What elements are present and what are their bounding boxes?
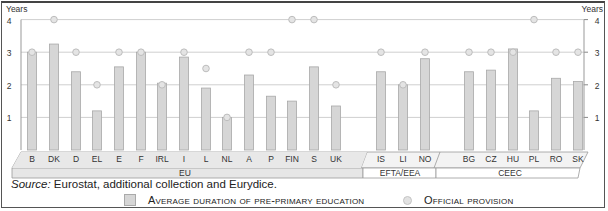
x-tick-label: F [138,154,143,164]
x-tick-label: NO [419,154,432,164]
bar [115,67,124,150]
x-tick-label: B [29,154,35,164]
bar [509,49,518,150]
bar [399,85,408,150]
bar [332,106,341,150]
official-provision-point [224,114,231,121]
official-provision-point [311,16,318,23]
x-tick-label: NL [222,154,233,164]
official-provision-point [203,65,210,72]
official-provision-point [400,82,407,89]
legend-bar-swatch [124,194,136,206]
x-tick-label: S [311,154,317,164]
bar [421,59,430,150]
y-tick-left: 3 [7,48,12,58]
official-provision-point [116,49,123,56]
bar [223,117,232,150]
official-provision-point [73,49,80,56]
x-tick-label: SK [572,154,584,164]
official-provision-point [531,16,538,23]
y-tick-right: 3 [595,48,600,58]
official-provision-point [333,82,340,89]
x-tick-label: PL [529,154,540,164]
x-tick-label: HU [507,154,519,164]
official-provision-point [510,49,517,56]
official-provision-point [488,49,495,56]
bar [288,101,297,150]
legend-item-circle: Official provision [403,194,513,206]
legend-bar-label: Average duration of pre-primary educatio… [148,194,364,206]
bar [487,70,496,150]
official-provision-point [159,82,166,89]
y-tick-right: 4 [595,16,600,26]
bar [93,111,102,150]
official-provision-point [246,49,253,56]
bar [267,96,276,150]
y-axis-label-right: Years [582,4,603,14]
official-provision-point [422,49,429,56]
official-provision-point [268,49,275,56]
x-tick-label: UK [330,154,342,164]
x-tick-label: DK [48,154,60,164]
x-tick-label: CZ [485,154,496,164]
bar [377,72,386,150]
x-tick-label: L [204,154,209,164]
bar [28,52,37,150]
y-tick-right: 1 [595,113,600,123]
official-provision-point [466,49,473,56]
legend-item-bar: Average duration of pre-primary educatio… [124,194,364,206]
x-tick-label: BG [463,154,475,164]
group-label: EFTA/EEA [380,168,421,178]
bar [158,83,167,150]
bar [310,67,319,150]
official-provision-point [138,49,145,56]
official-provision-point [94,82,101,89]
x-tick-label: IS [377,154,385,164]
source-label: Source: [11,178,51,190]
group-label: CEEC [498,168,522,178]
x-tick-label: P [268,154,274,164]
bar [530,111,539,150]
bar [137,52,146,150]
official-provision-point [575,49,582,56]
source-note: Source: Eurostat, additional collection … [11,178,277,190]
bar [50,44,59,150]
x-tick-label: I [183,154,185,164]
bar [180,57,189,150]
x-tick-label: E [116,154,122,164]
y-tick-left: 4 [7,16,12,26]
y-tick-left: 1 [7,113,12,123]
source-text: Eurostat, additional collection and Eury… [51,178,277,190]
y-axis-label-left: Years [6,4,27,14]
x-tick-label: LI [399,154,406,164]
bar [245,75,254,150]
y-tick-right: 2 [595,81,600,91]
official-provision-point [51,16,58,23]
x-tick-label: FIN [285,154,299,164]
bar [574,82,583,150]
official-provision-point [289,16,296,23]
y-tick-left: 2 [7,81,12,91]
bar [72,72,81,150]
official-provision-point [378,49,385,56]
bar [552,78,561,150]
x-tick-label: D [73,154,79,164]
official-provision-point [553,49,560,56]
official-provision-point [29,49,36,56]
group-label: EU [179,168,191,178]
x-tick-label: EL [92,154,103,164]
bar [465,72,474,150]
x-tick-label: IRL [155,154,169,164]
x-tick-label: A [246,154,252,164]
legend-circle-label: Official provision [424,194,513,206]
legend-circle-swatch [403,196,412,205]
bar [202,88,211,150]
x-tick-label: RO [550,154,563,164]
official-provision-point [181,49,188,56]
